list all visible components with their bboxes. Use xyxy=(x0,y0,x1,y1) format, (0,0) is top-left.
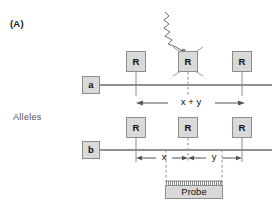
allele-b-restriction-site-3: R xyxy=(232,117,252,138)
allele-a-restriction-site-1: R xyxy=(126,51,146,72)
allele-label-a: a xyxy=(82,76,100,94)
allele-b-restriction-site-2: R xyxy=(178,117,198,138)
squiggly-arrow-icon xyxy=(164,12,189,55)
allele-b-restriction-site-1: R xyxy=(126,117,146,138)
measure-label-y: y xyxy=(207,151,221,162)
panel-label: (A) xyxy=(10,18,24,29)
measure-label-x-plus-y: x + y xyxy=(171,96,211,107)
allele-a-restriction-site-3: R xyxy=(232,51,252,72)
measure-label-x: x xyxy=(157,151,171,162)
diagram-lines-layer xyxy=(0,0,280,209)
probe-box: Probe xyxy=(165,185,223,199)
alleles-group-label: Alleles xyxy=(13,112,42,122)
figure-panel-a: (A) Alleles a R R R x + y b R R R x y Pr… xyxy=(0,0,280,209)
allele-label-b: b xyxy=(82,141,100,159)
allele-a-restriction-site-2-destroyed: R xyxy=(178,51,198,72)
